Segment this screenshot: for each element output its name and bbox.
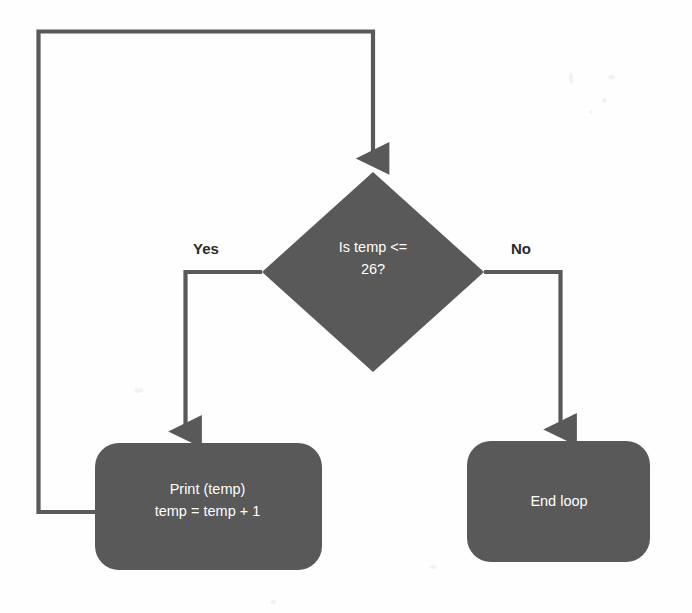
node-decision-shape: [262, 172, 484, 372]
flowchart-svg: [0, 0, 692, 613]
flowchart-canvas: Is temp <= 26? Print (temp) temp = temp …: [0, 0, 692, 613]
node-terminal-shape: [467, 441, 650, 562]
edge-label-yes: Yes: [178, 240, 234, 257]
node-process-shape: [95, 443, 322, 570]
edge-yes-branch: [186, 272, 263, 431]
edge-label-no: No: [496, 240, 546, 257]
edge-no-branch: [484, 272, 561, 429]
